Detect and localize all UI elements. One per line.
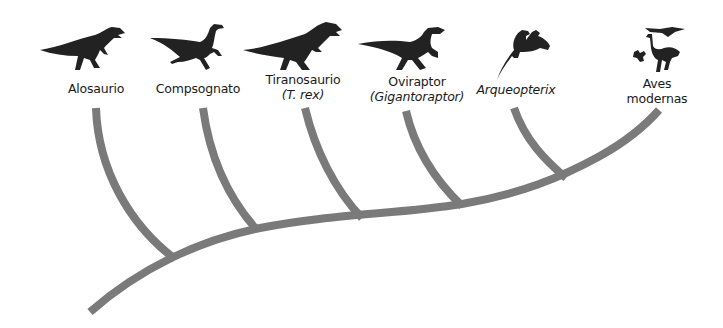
cladogram-tree (0, 0, 723, 328)
branch-alosaurio (96, 108, 175, 259)
archaeopteryx-silhouette-icon (497, 30, 550, 80)
taxon-name: Aves (627, 76, 688, 91)
allosaurus-silhouette-icon (40, 27, 125, 70)
taxon-name: Compsognato (156, 81, 241, 96)
branch-compsognato (203, 108, 257, 230)
tyrannosaurus-silhouette-icon (243, 22, 342, 70)
taxon-name: Tiranosaurio (265, 72, 340, 87)
taxon-label-compsognato: Compsognato (156, 81, 241, 96)
taxon-label-alosaurio: Alosaurio (68, 81, 124, 96)
cladogram: Alosaurio Compsognato Tiranosaurio (T. r… (0, 0, 723, 328)
modern-birds-silhouette-icon (633, 27, 685, 72)
taxon-subname: (T. rex) (265, 87, 340, 102)
taxon-name: Alosaurio (68, 81, 124, 96)
taxon-label-arqueopterix: Arqueopterix (476, 82, 555, 97)
taxon-label-tiranosaurio: Tiranosaurio (T. rex) (265, 72, 340, 102)
taxon-subname: modernas (627, 91, 688, 106)
trunk-branch (90, 110, 659, 312)
taxon-name: Arqueopterix (476, 82, 555, 97)
oviraptor-silhouette-icon (358, 27, 445, 70)
taxon-subname: (Gigantoraptor) (370, 89, 464, 104)
taxon-name: Oviraptor (370, 74, 464, 89)
taxon-label-oviraptor: Oviraptor (Gigantoraptor) (370, 74, 464, 104)
branch-arqueopterix (514, 108, 566, 178)
branch-tiranosaurio (305, 108, 362, 218)
branch-oviraptor (406, 111, 462, 206)
taxon-label-aves-modernas: Aves modernas (627, 76, 688, 106)
compsognathus-silhouette-icon (150, 24, 224, 70)
